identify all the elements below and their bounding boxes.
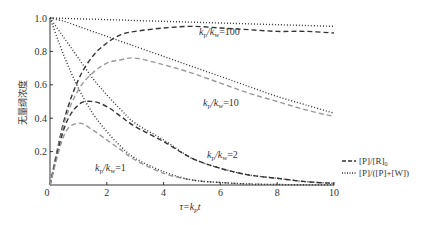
legend-dashed-label: [P]/[R]0 <box>359 156 388 167</box>
x-axis-label: τ=kpt <box>179 201 200 214</box>
curve-4 <box>50 18 334 26</box>
legend: [P]/[R]0 [P]/([P]+[W]) <box>342 156 409 178</box>
curve-5 <box>50 18 334 113</box>
x-tick-label: 6 <box>218 187 223 198</box>
y-axis-label: 无量纲浓度 <box>17 80 28 125</box>
y-tick-label: 0.4 <box>35 113 48 124</box>
curve-3 <box>50 123 334 185</box>
y-tick-label: 0.6 <box>35 79 48 90</box>
y-tick-label: 0.8 <box>35 46 48 57</box>
y-tick-label: 0.2 <box>35 146 48 157</box>
chart: 246810 0.20.40.60.81.0 0 无量纲浓度 τ=kpt kp/… <box>0 0 432 225</box>
origin-label: 0 <box>45 187 50 198</box>
x-tick-label: 4 <box>161 187 166 198</box>
x-tick-label: 8 <box>275 187 280 198</box>
label-kp-kw-10: kp/kw=10 <box>203 97 239 110</box>
label-kp-kw-100: kp/kw=100 <box>199 26 240 39</box>
legend-dotted-label: [P]/([P]+[W]) <box>359 168 409 178</box>
curves <box>50 18 334 185</box>
label-kp-kw-1: kp/kw=1 <box>95 162 126 175</box>
label-kp-kw-2: kp/kw=2 <box>207 149 238 162</box>
x-tick-label: 10 <box>329 187 339 198</box>
axes: 246810 0.20.40.60.81.0 0 <box>35 13 340 199</box>
x-tick-label: 2 <box>104 187 109 198</box>
curve-1 <box>50 58 334 185</box>
y-tick-label: 1.0 <box>35 13 48 24</box>
